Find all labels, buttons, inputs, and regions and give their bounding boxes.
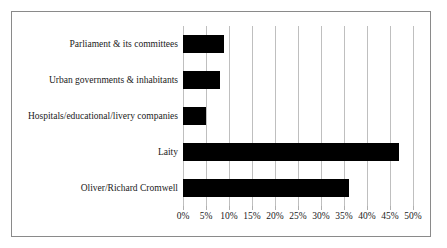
x-axis-tick-label: 35% [335, 211, 352, 221]
x-axis-tick [298, 206, 299, 210]
bar-row: Hospitals/educational/livery companies [183, 98, 413, 134]
category-label: Laity [158, 143, 178, 161]
bar-row: Laity [183, 134, 413, 170]
x-axis-tick-label: 30% [312, 211, 329, 221]
x-axis-tick [390, 206, 391, 210]
bar-row: Urban governments & inhabitants [183, 62, 413, 98]
x-axis-tick-label: 0% [177, 211, 190, 221]
x-axis-tick [252, 206, 253, 210]
x-axis-tick [229, 206, 230, 210]
category-label: Hospitals/educational/livery companies [28, 107, 178, 125]
x-axis-tick-label: 10% [220, 211, 237, 221]
bar [183, 143, 399, 161]
x-axis-tick [183, 206, 184, 210]
bar-row: Oliver/Richard Cromwell [183, 170, 413, 206]
category-label: Parliament & its committees [70, 35, 178, 53]
bar [183, 35, 224, 53]
bar [183, 107, 206, 125]
x-axis-tick [367, 206, 368, 210]
x-axis-tick-label: 50% [404, 211, 421, 221]
x-axis-tick [344, 206, 345, 210]
x-axis-tick [275, 206, 276, 210]
x-axis: 0%5%10%15%20%25%30%35%40%45%50% [183, 206, 413, 230]
chart-figure: Parliament & its committeesUrban governm… [11, 11, 431, 237]
x-axis-tick [321, 206, 322, 210]
bar-row: Parliament & its committees [183, 26, 413, 62]
x-axis-tick-label: 5% [200, 211, 213, 221]
bar [183, 71, 220, 89]
x-axis-tick-label: 45% [381, 211, 398, 221]
category-label: Oliver/Richard Cromwell [81, 179, 178, 197]
x-axis-tick [206, 206, 207, 210]
gridline [413, 26, 414, 206]
x-axis-tick-label: 25% [289, 211, 306, 221]
bar [183, 179, 349, 197]
x-axis-tick-label: 20% [266, 211, 283, 221]
plot-area: Parliament & its committeesUrban governm… [183, 26, 413, 206]
x-axis-tick-label: 40% [358, 211, 375, 221]
x-axis-tick-label: 15% [243, 211, 260, 221]
x-axis-tick [413, 206, 414, 210]
category-label: Urban governments & inhabitants [49, 71, 178, 89]
